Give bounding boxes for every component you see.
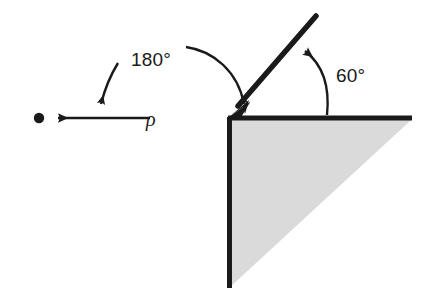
label-angle-60: 60° [336,65,365,86]
source-point-dot [34,113,44,123]
label-rho: ρ [145,108,156,131]
reflection-angle-diagram: 180° 60° ρ [0,0,430,299]
figure-root: 180° 60° ρ [0,0,430,299]
label-angle-180: 180° [131,49,171,70]
